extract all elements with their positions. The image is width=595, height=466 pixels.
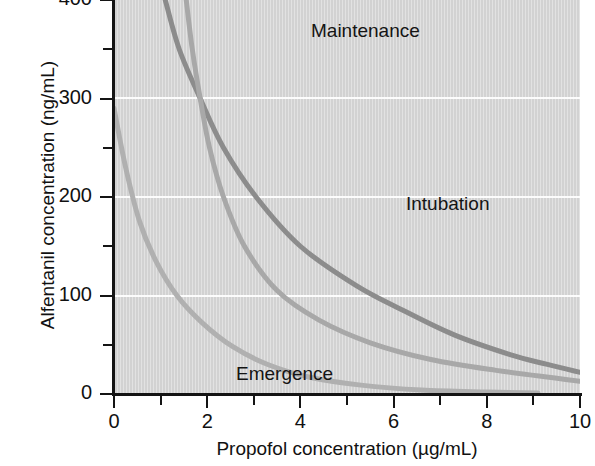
x-tick-2 [206, 396, 208, 408]
y-tick-300 [100, 98, 112, 100]
curve-label-maintenance: Maintenance [311, 20, 420, 42]
y-tick-100 [100, 295, 112, 297]
y-axis-title: Alfentanil concentration (ng/mL) [37, 0, 59, 395]
curve-label-emergence: Emergence [236, 363, 333, 385]
x-tick-4 [299, 396, 301, 408]
curve-emergence [114, 108, 538, 393]
x-tick-1 [160, 396, 162, 405]
y-tick-400 [100, 0, 112, 1]
x-tick-label-8: 8 [457, 410, 517, 433]
x-tick-0 [113, 396, 115, 408]
y-tick-200 [100, 196, 112, 198]
y-axis-line [112, 0, 115, 396]
x-tick-label-4: 4 [270, 410, 330, 433]
y-tick-250 [103, 147, 112, 149]
y-tick-150 [103, 245, 112, 247]
x-tick-10 [579, 396, 581, 408]
y-tick-50 [103, 344, 112, 346]
x-tick-9 [532, 396, 534, 405]
y-tick-0 [100, 393, 112, 395]
x-tick-label-2: 2 [177, 410, 237, 433]
y-tick-350 [103, 48, 112, 50]
x-tick-label-0: 0 [84, 410, 144, 433]
x-tick-3 [253, 396, 255, 405]
curve-label-intubation: Intubation [406, 193, 489, 215]
x-tick-8 [486, 396, 488, 408]
curve-intubation [165, 0, 580, 372]
plot-area: Maintenance Intubation Emergence [114, 0, 580, 394]
x-tick-7 [439, 396, 441, 405]
x-tick-label-6: 6 [364, 410, 424, 433]
curves-svg [114, 0, 580, 394]
x-tick-6 [393, 396, 395, 408]
x-tick-label-10: 10 [550, 410, 595, 433]
curve-maintenance [186, 0, 580, 381]
x-tick-5 [346, 396, 348, 405]
x-axis-title: Propofol concentration (µg/mL) [114, 438, 580, 460]
